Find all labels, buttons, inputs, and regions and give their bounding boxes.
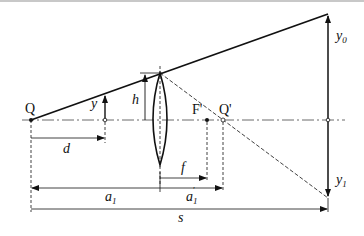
label-y1: y1 [334, 172, 347, 189]
label-f: f [181, 160, 187, 175]
label-Q: Q [25, 101, 35, 116]
F-prime-point [205, 118, 209, 122]
optics-diagram: Q y h F' Q' d f a1 a1' s y0 y1 [0, 0, 364, 236]
Q-prime-point [221, 118, 225, 122]
screen-center-point [326, 118, 330, 122]
label-y: y [89, 96, 98, 111]
refracted-ray [160, 73, 328, 198]
label-h: h [132, 92, 139, 107]
label-s: s [178, 210, 184, 225]
label-a1: a1 [105, 189, 117, 206]
label-Q-prime: Q' [219, 102, 232, 117]
incident-ray [31, 14, 328, 120]
y-foot-point [103, 118, 107, 122]
label-F-prime: F' [192, 102, 202, 117]
label-d: d [63, 141, 71, 156]
label-y0: y0 [334, 28, 347, 45]
